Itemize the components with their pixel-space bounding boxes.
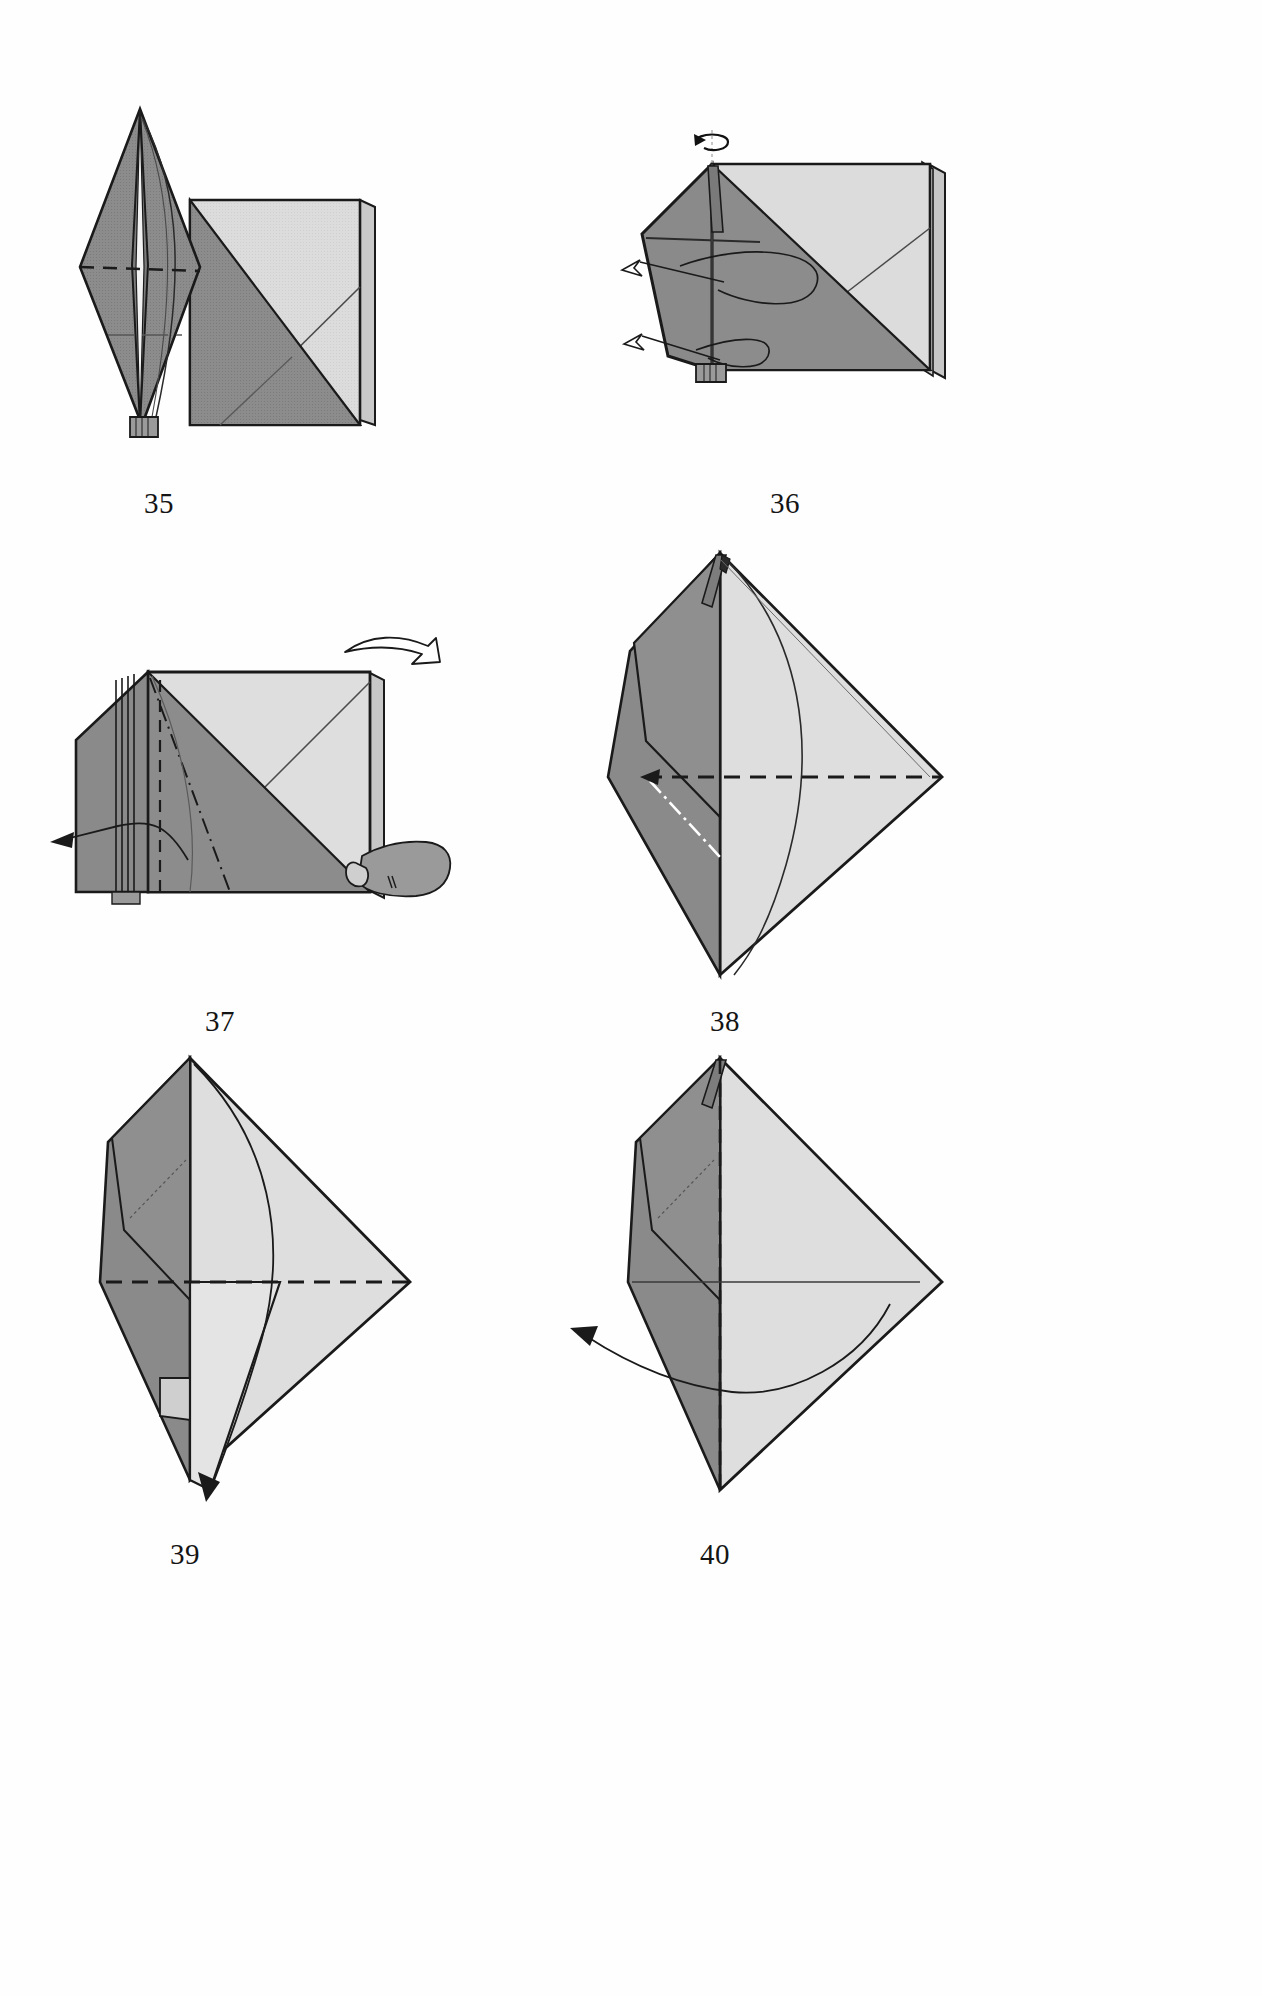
figure-38-diagram — [590, 545, 970, 985]
figure-36-caption: 36 — [745, 487, 825, 520]
figure-39-caption: 39 — [145, 1538, 225, 1571]
back-square-flap — [360, 200, 375, 425]
figure-40-diagram — [560, 1050, 980, 1510]
hollow-push-arrow-37 — [345, 638, 440, 664]
light-right-panel-40 — [720, 1058, 942, 1490]
figure-37-caption: 37 — [180, 1005, 260, 1038]
figure-35-caption: 35 — [119, 487, 199, 520]
left-kite-point — [80, 109, 200, 425]
figure-37-diagram — [40, 620, 500, 960]
bottom-layer-stack — [130, 417, 158, 437]
rotate-arrow-icon — [694, 130, 728, 166]
left-wing-37 — [76, 672, 148, 892]
figure-35-diagram — [60, 95, 460, 455]
bottom-layer-stack-36 — [696, 364, 726, 382]
left-dark-panel-38 — [608, 553, 720, 975]
left-dark-panel-40 — [628, 1058, 720, 1490]
bottom-tab-39 — [160, 1378, 190, 1420]
instruction-page: 35 — [0, 0, 1262, 1996]
light-right-panel-38 — [720, 553, 942, 975]
figure-39-diagram — [90, 1050, 450, 1510]
figure-38-caption: 38 — [685, 1005, 765, 1038]
figure-40-caption: 40 — [675, 1538, 755, 1571]
figure-36-diagram — [600, 120, 1000, 450]
